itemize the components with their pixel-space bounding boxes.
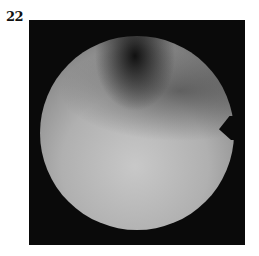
figure-label: 22: [6, 9, 23, 24]
image-frame: [29, 20, 245, 245]
circular-view: [40, 36, 234, 230]
